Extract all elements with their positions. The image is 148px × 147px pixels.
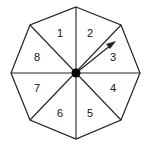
section-label-6: 6 <box>57 107 63 119</box>
section-label-7: 7 <box>34 82 40 94</box>
pivot-dot <box>72 69 81 78</box>
section-label-8: 8 <box>34 51 40 63</box>
section-label-3: 3 <box>110 51 116 63</box>
section-label-5: 5 <box>87 107 93 119</box>
section-label-4: 4 <box>110 82 116 94</box>
section-label-1: 1 <box>57 27 63 39</box>
section-label-2: 2 <box>87 27 93 39</box>
spinner-diagram: 1 2 3 4 5 6 7 8 <box>0 0 148 147</box>
